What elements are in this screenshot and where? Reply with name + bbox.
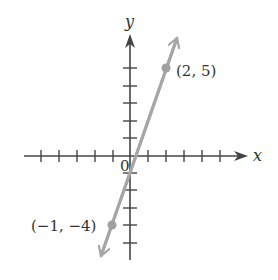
point-neg1-neg4 — [108, 221, 117, 230]
point-label-neg1-neg4: (−1, −4) — [31, 217, 96, 235]
origin-label: 0 — [120, 157, 130, 175]
x-axis-label: x — [253, 146, 262, 165]
coordinate-graph: y x 0 (2, 5) (−1, −4) — [0, 0, 278, 280]
point-2-5 — [162, 64, 171, 73]
point-label-2-5: (2, 5) — [176, 62, 216, 80]
y-axis-label: y — [124, 12, 135, 31]
y-axis — [123, 36, 137, 260]
